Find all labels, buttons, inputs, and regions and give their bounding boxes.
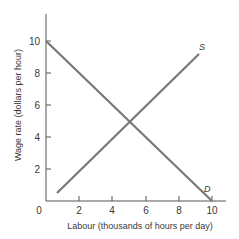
- x-tick-label: 10: [206, 205, 218, 216]
- x-tick-label: 8: [176, 205, 182, 216]
- y-tick-label: 10: [29, 36, 41, 47]
- x-ticks: 2 4 6 8 10: [76, 196, 218, 216]
- y-tick-label: 8: [34, 68, 40, 79]
- x-tick-label: 4: [109, 205, 115, 216]
- x-tick-label: 6: [143, 205, 149, 216]
- supply-curve: [57, 54, 199, 193]
- demand-label: D: [204, 184, 211, 194]
- origin-label: 0: [36, 205, 42, 216]
- y-tick-label: 6: [34, 100, 40, 111]
- y-tick-label: 4: [34, 132, 40, 143]
- x-tick-label: 2: [76, 205, 82, 216]
- y-tick-label: 2: [34, 164, 40, 175]
- supply-demand-chart: 2 4 6 8 10 2 4 6 8 10 0 S D Labour (thou…: [0, 0, 239, 239]
- x-axis-title: Labour (thousands of hours per day): [67, 221, 213, 231]
- supply-label: S: [199, 42, 205, 52]
- y-axis-title: Wage rate (dollars per hour): [13, 49, 23, 161]
- y-ticks: 2 4 6 8 10: [29, 36, 51, 175]
